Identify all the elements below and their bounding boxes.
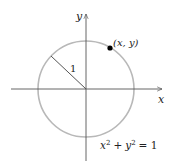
circle-equation: x2+y2= 1 [100, 139, 157, 151]
x-axis-label: x [158, 93, 165, 106]
radius-label: 1 [70, 63, 76, 74]
point-xy [107, 45, 112, 50]
radius-line [51, 56, 86, 89]
y-axis-label: y [75, 10, 83, 23]
svg-text:x2+y2= 1: x2+y2= 1 [100, 139, 157, 151]
point-label: (x, y) [113, 37, 139, 48]
unit-circle-diagram: y x 1 (x, y) x2+y2= 1 [0, 0, 172, 165]
